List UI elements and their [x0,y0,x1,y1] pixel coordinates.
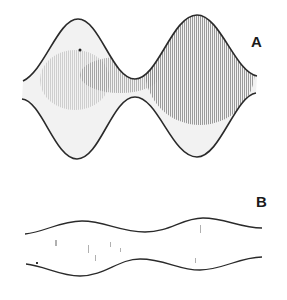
panel-b-lower-curve [26,257,262,276]
panel-b-upper-curve [25,218,262,234]
panel-b-fill [36,225,201,264]
panel-b-label: B [256,193,267,210]
envelope-diagram [0,0,287,300]
panel-a-label: A [251,33,262,50]
